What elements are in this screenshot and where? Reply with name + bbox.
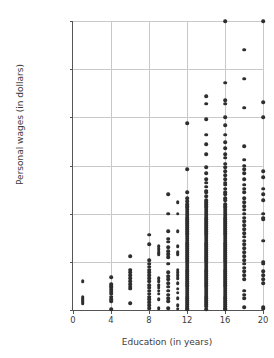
data-point	[223, 308, 227, 312]
data-point	[81, 301, 85, 305]
data-point	[261, 19, 265, 23]
data-point	[223, 102, 227, 106]
data-point	[157, 292, 161, 296]
data-point	[242, 144, 246, 148]
data-point	[176, 245, 180, 249]
data-point	[223, 116, 227, 120]
data-point	[261, 307, 265, 311]
x-tick-label: 20	[258, 316, 269, 324]
data-point	[261, 187, 265, 191]
data-point	[261, 281, 265, 285]
scatter-plot-figure: Personal wages (in dollars) 025,00050,00…	[0, 0, 274, 358]
data-point	[176, 281, 180, 285]
data-point	[204, 133, 208, 137]
data-point	[261, 100, 265, 104]
y-tick-mark	[70, 117, 73, 118]
data-point	[166, 262, 170, 266]
gridline-horizontal	[73, 166, 263, 167]
data-point	[185, 168, 189, 172]
data-point	[261, 239, 265, 243]
data-point	[157, 298, 161, 302]
data-point	[176, 276, 180, 280]
y-axis-label: Personal wages (in dollars)	[16, 45, 25, 205]
data-point	[185, 121, 189, 125]
data-point	[166, 229, 170, 233]
y-tick-mark	[70, 214, 73, 215]
data-point	[147, 233, 151, 237]
data-point	[261, 198, 265, 202]
y-tick-mark	[70, 262, 73, 263]
data-point	[204, 117, 208, 121]
gridline-horizontal	[73, 21, 263, 22]
data-point	[176, 307, 180, 311]
data-point	[147, 243, 151, 247]
data-point	[204, 307, 208, 311]
data-point	[242, 297, 246, 301]
data-point	[166, 240, 170, 244]
data-point	[242, 171, 246, 175]
data-point	[261, 193, 265, 197]
data-point	[166, 300, 170, 304]
plot-area: 025,00050,00075,000100,000125,000150,000…	[72, 21, 263, 311]
data-point	[109, 300, 113, 304]
data-point	[242, 191, 246, 195]
x-tick-label: 8	[146, 316, 151, 324]
data-point	[261, 175, 265, 179]
data-point	[109, 307, 113, 311]
data-point	[166, 193, 170, 197]
data-point	[204, 166, 208, 170]
data-point	[204, 102, 208, 106]
gridline-horizontal	[73, 117, 263, 118]
gridline-horizontal	[73, 69, 263, 70]
data-point	[204, 143, 208, 147]
data-point	[242, 106, 246, 110]
data-point	[128, 287, 132, 291]
data-point	[128, 301, 132, 305]
data-point	[204, 152, 208, 156]
data-point	[176, 291, 180, 295]
data-point	[81, 279, 85, 283]
x-tick-label: 12	[182, 316, 193, 324]
data-point	[223, 146, 227, 150]
data-point	[185, 191, 189, 195]
data-point	[242, 177, 246, 181]
x-tick-label: 16	[220, 316, 231, 324]
y-tick-mark	[70, 166, 73, 167]
data-point	[176, 200, 180, 204]
data-point	[261, 169, 265, 173]
data-point	[166, 255, 170, 259]
x-axis-label: Education (in years)	[72, 338, 262, 347]
data-point	[223, 123, 227, 127]
data-point	[223, 133, 227, 137]
data-point	[176, 252, 180, 256]
data-point	[242, 158, 246, 162]
data-point	[128, 254, 132, 258]
data-point	[223, 141, 227, 145]
data-point	[223, 156, 227, 160]
data-point	[223, 81, 227, 85]
data-point	[176, 229, 180, 233]
data-point	[166, 212, 170, 216]
data-point	[157, 306, 161, 310]
y-axis-label-wrapper: Personal wages (in dollars)	[0, 0, 40, 330]
gridline-vertical	[111, 21, 112, 310]
data-point	[166, 306, 170, 310]
x-tick-label: 0	[70, 316, 75, 324]
data-point	[242, 77, 246, 81]
y-tick-mark	[70, 69, 73, 70]
data-point	[176, 297, 180, 301]
data-point	[109, 275, 113, 279]
data-point	[223, 19, 227, 23]
data-point	[242, 305, 246, 309]
data-point	[261, 116, 265, 120]
data-point	[157, 252, 161, 256]
y-tick-mark	[70, 21, 73, 22]
data-point	[261, 262, 265, 266]
x-tick-mark	[149, 310, 150, 314]
data-point	[147, 307, 151, 311]
data-point	[185, 308, 189, 312]
data-point	[204, 94, 208, 98]
data-point	[176, 212, 180, 216]
data-point	[204, 171, 208, 175]
data-point	[242, 48, 246, 52]
